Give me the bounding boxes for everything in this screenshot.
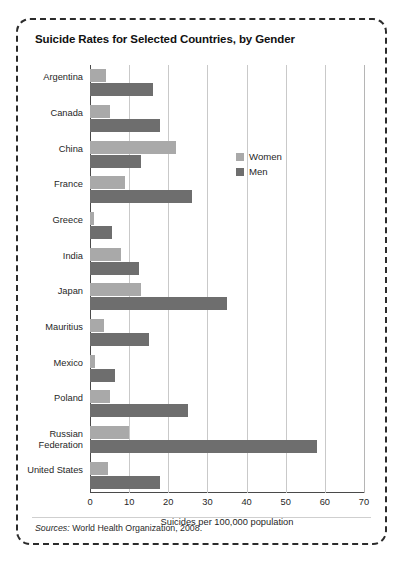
source-note: Sources: World Health Organization, 2008… bbox=[35, 523, 202, 533]
category-label-canada: Canada bbox=[0, 108, 83, 119]
bar-men-china bbox=[90, 155, 141, 168]
plot-area: ArgentinaCanadaChinaFranceGreeceIndiaJap… bbox=[90, 65, 364, 493]
bar-men-japan bbox=[90, 297, 227, 310]
bar-row: Argentina bbox=[90, 69, 364, 96]
bar-women-japan bbox=[90, 283, 141, 296]
source-divider bbox=[32, 517, 371, 518]
category-label-france: France bbox=[0, 179, 83, 190]
bar-row: India bbox=[90, 248, 364, 275]
bar-women-india bbox=[90, 248, 121, 261]
x-tick-30: 30 bbox=[202, 497, 212, 507]
bar-women-mexico bbox=[90, 355, 95, 368]
bar-row: Japan bbox=[90, 283, 364, 310]
legend-swatch-men-icon bbox=[236, 168, 244, 176]
bar-men-argentina bbox=[90, 83, 153, 96]
category-label-mexico: Mexico bbox=[0, 358, 83, 369]
bar-women-united-states bbox=[90, 462, 108, 475]
legend-item-men: Men bbox=[236, 165, 282, 178]
legend-swatch-women-icon bbox=[236, 153, 244, 161]
x-tick-20: 20 bbox=[163, 497, 173, 507]
bar-women-mauritius bbox=[90, 319, 104, 332]
legend-label-men: Men bbox=[249, 166, 268, 177]
bar-row: Mexico bbox=[90, 355, 364, 382]
category-label-greece: Greece bbox=[0, 215, 83, 226]
x-tick-60: 60 bbox=[320, 497, 330, 507]
bar-women-greece bbox=[90, 212, 94, 225]
bar-men-canada bbox=[90, 119, 160, 132]
category-label-mauritius: Mauritius bbox=[0, 322, 83, 333]
category-label-united-states: United States bbox=[0, 465, 83, 476]
figure-frame: Suicide Rates for Selected Countries, by… bbox=[16, 18, 387, 545]
legend-label-women: Women bbox=[249, 151, 282, 162]
bar-women-china bbox=[90, 141, 176, 154]
source-label: Sources: bbox=[35, 523, 70, 533]
bar-row: France bbox=[90, 176, 364, 203]
category-label-argentina: Argentina bbox=[0, 72, 83, 83]
bar-row: United States bbox=[90, 462, 364, 489]
gridline-70 bbox=[364, 65, 365, 493]
x-tick-10: 10 bbox=[124, 497, 134, 507]
bar-men-united-states bbox=[90, 476, 160, 489]
bar-women-canada bbox=[90, 105, 110, 118]
bar-row: Poland bbox=[90, 390, 364, 417]
bar-row: Russian Federation bbox=[90, 426, 364, 453]
bar-men-france bbox=[90, 190, 192, 203]
bar-men-greece bbox=[90, 226, 112, 239]
chart-title: Suicide Rates for Selected Countries, by… bbox=[35, 33, 295, 45]
bar-men-russian-federation bbox=[90, 440, 317, 453]
bar-men-mauritius bbox=[90, 333, 149, 346]
bar-women-argentina bbox=[90, 69, 106, 82]
legend-item-women: Women bbox=[236, 150, 282, 163]
bar-women-france bbox=[90, 176, 125, 189]
x-tick-0: 0 bbox=[87, 497, 92, 507]
category-label-poland: Poland bbox=[0, 393, 83, 404]
bar-men-poland bbox=[90, 404, 188, 417]
x-tick-70: 70 bbox=[359, 497, 369, 507]
bar-men-india bbox=[90, 262, 139, 275]
source-text: World Health Organization, 2008. bbox=[72, 523, 202, 533]
x-tick-40: 40 bbox=[241, 497, 251, 507]
chart-legend: WomenMen bbox=[236, 150, 282, 180]
category-label-russian-federation: Russian Federation bbox=[0, 429, 83, 450]
category-label-india: India bbox=[0, 251, 83, 262]
bar-women-russian-federation bbox=[90, 426, 129, 439]
bar-row: China bbox=[90, 141, 364, 168]
category-label-japan: Japan bbox=[0, 286, 83, 297]
category-label-china: China bbox=[0, 144, 83, 155]
x-tick-50: 50 bbox=[281, 497, 291, 507]
bar-row: Mauritius bbox=[90, 319, 364, 346]
bar-row: Canada bbox=[90, 105, 364, 132]
bar-row: Greece bbox=[90, 212, 364, 239]
bar-women-poland bbox=[90, 390, 110, 403]
bar-men-mexico bbox=[90, 369, 115, 382]
